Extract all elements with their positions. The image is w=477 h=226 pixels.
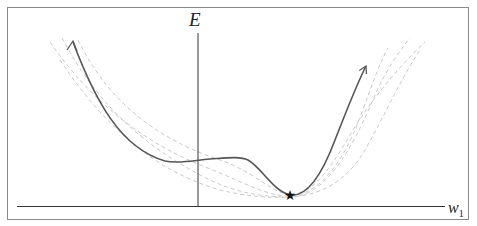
dashed-curve-1 — [50, 42, 388, 196]
error-surface-diagram: ★ — [0, 0, 477, 226]
dashed-curve-2 — [62, 38, 410, 197]
w1-axis-label: w1 — [448, 199, 464, 219]
minimum-star-icon: ★ — [284, 187, 297, 203]
main-error-curve — [73, 42, 366, 195]
w-label-subscript: 1 — [459, 208, 464, 219]
dashed-curves — [50, 38, 425, 197]
diagram-frame: ★ E w1 — [0, 0, 477, 226]
border-box — [8, 8, 469, 220]
w-label-base: w — [448, 199, 459, 216]
dashed-curve-3 — [78, 40, 425, 195]
e-axis-label: E — [189, 9, 201, 31]
